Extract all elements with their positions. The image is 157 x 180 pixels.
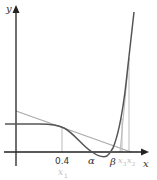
diagram-canvas: y x 0.4 x 1 α β x 3 x 2 xyxy=(0,0,157,180)
tick-label-x1: x xyxy=(58,167,63,177)
tick-label-beta: β xyxy=(109,156,116,167)
y-axis-label: y xyxy=(5,3,12,14)
x-axis-label: x xyxy=(143,158,149,169)
tick-label-x1-index: 1 xyxy=(64,172,68,179)
tick-label-alpha: α xyxy=(88,155,95,166)
x-axis-arrow-icon xyxy=(141,149,149,156)
tick-label-0-4: 0.4 xyxy=(55,156,70,166)
function-curve xyxy=(5,12,134,157)
y-axis-arrow-icon xyxy=(13,5,20,13)
tick-label-x2-index: 2 xyxy=(132,161,136,167)
